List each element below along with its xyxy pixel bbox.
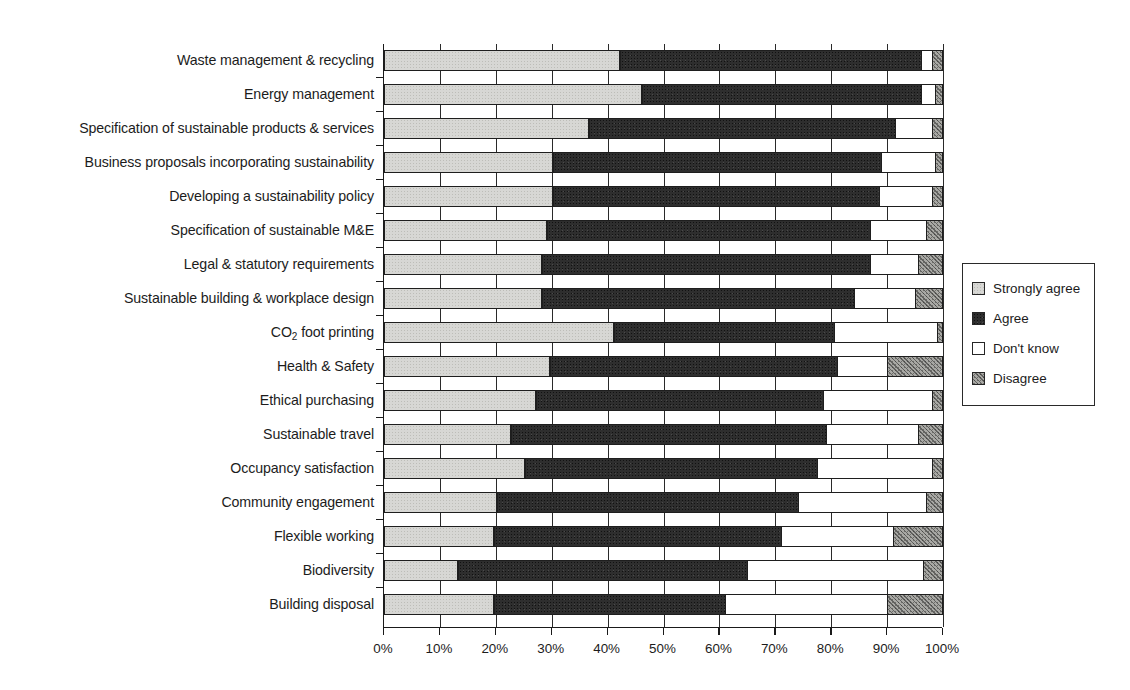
bar-segment-strongly [385, 51, 620, 70]
bar-segment-dontknow [782, 527, 894, 546]
bar-segment-strongly [385, 459, 525, 478]
bar-segment-disagree [916, 289, 943, 308]
bar-segment-agree [494, 527, 782, 546]
bar-row [384, 322, 943, 343]
bar-segment-disagree [888, 357, 943, 376]
bar-segment-disagree [888, 595, 943, 614]
bar-segment-dontknow [922, 85, 936, 104]
legend-label: Don't know [993, 341, 1059, 356]
bar-row [384, 220, 943, 241]
legend-label: Agree [993, 311, 1029, 326]
bar-segment-agree [497, 493, 799, 512]
bar-row [384, 390, 943, 411]
bar-row [384, 594, 943, 615]
bar-segment-agree [511, 425, 827, 444]
bar-segment-disagree [927, 221, 943, 240]
category-label: Building disposal [2, 597, 374, 612]
category-label: Occupancy satisfaction [2, 461, 374, 476]
y-axis-tick [376, 485, 383, 486]
y-axis-tick [376, 383, 383, 384]
bar-segment-strongly [385, 595, 494, 614]
bar-segment-disagree [927, 493, 943, 512]
bar-segment-agree [494, 595, 726, 614]
bar-segment-strongly [385, 561, 458, 580]
bar-segment-dontknow [855, 289, 916, 308]
bar-segment-agree [553, 187, 880, 206]
y-axis-tick [376, 349, 383, 350]
y-axis-tick [376, 145, 383, 146]
bar-segment-strongly [385, 221, 547, 240]
x-axis-tick-30pct [551, 628, 552, 635]
bar-segment-disagree [924, 561, 943, 580]
bar-segment-dontknow [880, 187, 933, 206]
gridline-100pct [943, 44, 944, 627]
bar-segment-dontknow [748, 561, 924, 580]
bar-segment-strongly [385, 255, 542, 274]
x-axis-tick-50pct [663, 628, 664, 635]
bar-segment-disagree [933, 459, 943, 478]
category-label: Business proposals incorporating sustain… [2, 155, 374, 170]
bar-row [384, 254, 943, 275]
bar-segment-strongly [385, 323, 614, 342]
x-axis-label: 40% [577, 641, 637, 656]
bar-segment-strongly [385, 493, 497, 512]
bar-segment-disagree [933, 119, 943, 138]
bar-segment-dontknow [824, 391, 933, 410]
y-axis-tick [376, 213, 383, 214]
legend-swatch-icon [972, 372, 985, 385]
bar-segment-dontknow [799, 493, 928, 512]
bar-segment-dontknow [883, 153, 936, 172]
bar-row [384, 356, 943, 377]
y-axis-tick [376, 519, 383, 520]
x-axis-tick-40pct [607, 628, 608, 635]
bar-segment-dontknow [827, 425, 919, 444]
x-axis-label: 50% [633, 641, 693, 656]
bar-segment-strongly [385, 85, 642, 104]
bar-segment-strongly [385, 357, 550, 376]
x-axis-tick-80pct [830, 628, 831, 635]
x-axis-label: 0% [353, 641, 413, 656]
bar-row [384, 50, 943, 71]
bar-row [384, 424, 943, 445]
x-axis-label: 20% [465, 641, 525, 656]
legend-item: Disagree [972, 363, 1094, 393]
bar-segment-disagree [933, 51, 943, 70]
bar-segment-dontknow [835, 323, 938, 342]
y-axis-tick [376, 315, 383, 316]
legend-item: Agree [972, 303, 1094, 333]
bar-segment-dontknow [838, 357, 888, 376]
bar-segment-agree [589, 119, 896, 138]
category-label: Ethical purchasing [2, 393, 374, 408]
bar-row [384, 560, 943, 581]
category-axis-labels: Waste management & recyclingEnergy manag… [0, 0, 374, 690]
x-axis-tick-100pct [942, 628, 943, 635]
bar-segment-disagree [938, 323, 943, 342]
category-label: Legal & statutory requirements [2, 257, 374, 272]
bar-segment-disagree [936, 153, 943, 172]
bar-row [384, 492, 943, 513]
legend-label: Disagree [993, 371, 1047, 386]
x-axis-tick-10pct [439, 628, 440, 635]
bar-segment-disagree [936, 85, 943, 104]
bar-segment-agree [550, 357, 838, 376]
category-label: Health & Safety [2, 359, 374, 374]
y-axis-tick [376, 553, 383, 554]
y-axis-tick [376, 247, 383, 248]
legend-label: Strongly agree [993, 281, 1080, 296]
stacked-bar-chart: Waste management & recyclingEnergy manag… [0, 0, 1130, 690]
y-axis-tick [376, 281, 383, 282]
bar-row [384, 152, 943, 173]
category-label: Developing a sustainability policy [2, 189, 374, 204]
bar-segment-agree [525, 459, 818, 478]
y-axis-tick [376, 417, 383, 418]
category-label: Specification of sustainable products & … [2, 121, 374, 136]
category-label: CO2 foot printing [2, 325, 374, 341]
category-label: Specification of sustainable M&E [2, 223, 374, 238]
bar-segment-agree [458, 561, 749, 580]
x-axis-label: 90% [856, 641, 916, 656]
chart-legend: Strongly agreeAgreeDon't knowDisagree [962, 263, 1095, 406]
legend-swatch-icon [972, 342, 985, 355]
legend-item: Don't know [972, 333, 1094, 363]
bar-segment-agree [620, 51, 922, 70]
bar-segment-strongly [385, 425, 511, 444]
